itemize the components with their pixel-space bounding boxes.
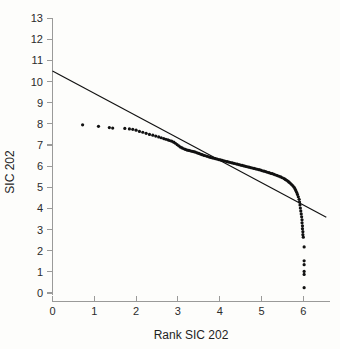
data-point bbox=[298, 198, 301, 201]
data-point bbox=[301, 227, 304, 230]
chart-figure: 012345678910111213 0123456 Rank SIC 202 … bbox=[0, 0, 340, 349]
y-tick-label-11: 11 bbox=[32, 54, 43, 66]
data-point bbox=[301, 224, 304, 227]
data-point bbox=[300, 218, 303, 221]
data-point bbox=[298, 200, 301, 203]
x-tick-label-0: 0 bbox=[49, 305, 55, 317]
data-point bbox=[299, 209, 302, 212]
y-tick-label-7: 7 bbox=[37, 139, 43, 151]
x-axis-title: Rank SIC 202 bbox=[154, 328, 229, 342]
y-tick-label-3: 3 bbox=[37, 224, 43, 236]
data-point bbox=[128, 127, 131, 130]
x-tick-label-2: 2 bbox=[133, 305, 139, 317]
y-tick-label-10: 10 bbox=[31, 76, 43, 88]
y-tick-label-0: 0 bbox=[37, 287, 43, 299]
data-point bbox=[303, 259, 306, 262]
data-point-group bbox=[81, 123, 306, 289]
data-point bbox=[154, 134, 157, 137]
data-point bbox=[300, 212, 303, 215]
x-tick-label-3: 3 bbox=[175, 305, 181, 317]
data-point bbox=[303, 245, 306, 248]
y-tick-label-8: 8 bbox=[37, 118, 43, 130]
y-axis-title: SIC 202 bbox=[3, 150, 17, 194]
y-tick-label-9: 9 bbox=[37, 97, 43, 109]
data-point bbox=[135, 129, 138, 132]
data-point bbox=[298, 203, 301, 206]
data-point bbox=[108, 126, 111, 129]
y-tick-label-13: 13 bbox=[31, 12, 43, 24]
data-point bbox=[303, 273, 306, 276]
fitted-regression-line bbox=[53, 71, 327, 217]
x-tick-label-6: 6 bbox=[300, 305, 306, 317]
data-point bbox=[145, 132, 148, 135]
data-point bbox=[300, 215, 303, 218]
data-point bbox=[111, 126, 114, 129]
data-point bbox=[303, 263, 306, 266]
y-axis-tick-marks bbox=[47, 18, 53, 293]
data-point bbox=[138, 130, 141, 133]
data-point bbox=[300, 221, 303, 224]
x-tick-label-4: 4 bbox=[217, 305, 223, 317]
scatter-plot-canvas: 012345678910111213 0123456 Rank SIC 202 … bbox=[0, 0, 340, 349]
y-axis-tick-labels: 012345678910111213 bbox=[31, 12, 43, 299]
data-point bbox=[303, 286, 306, 289]
data-point bbox=[141, 131, 144, 134]
x-axis-tick-marks bbox=[53, 296, 304, 302]
y-tick-label-1: 1 bbox=[37, 266, 43, 278]
data-point bbox=[131, 128, 134, 131]
y-tick-label-4: 4 bbox=[37, 202, 43, 214]
data-point bbox=[151, 134, 154, 137]
y-tick-label-6: 6 bbox=[37, 160, 43, 172]
data-point bbox=[148, 133, 151, 136]
data-point bbox=[81, 123, 84, 126]
x-tick-label-5: 5 bbox=[258, 305, 264, 317]
x-tick-label-1: 1 bbox=[91, 305, 97, 317]
y-tick-label-12: 12 bbox=[31, 33, 43, 45]
data-point bbox=[303, 270, 306, 273]
data-point bbox=[302, 236, 305, 239]
data-point bbox=[123, 127, 126, 130]
y-tick-label-5: 5 bbox=[37, 181, 43, 193]
x-axis-tick-labels: 0123456 bbox=[49, 305, 306, 317]
y-tick-label-2: 2 bbox=[37, 245, 43, 257]
data-point bbox=[299, 206, 302, 209]
data-point bbox=[301, 230, 304, 233]
data-point bbox=[97, 125, 100, 128]
